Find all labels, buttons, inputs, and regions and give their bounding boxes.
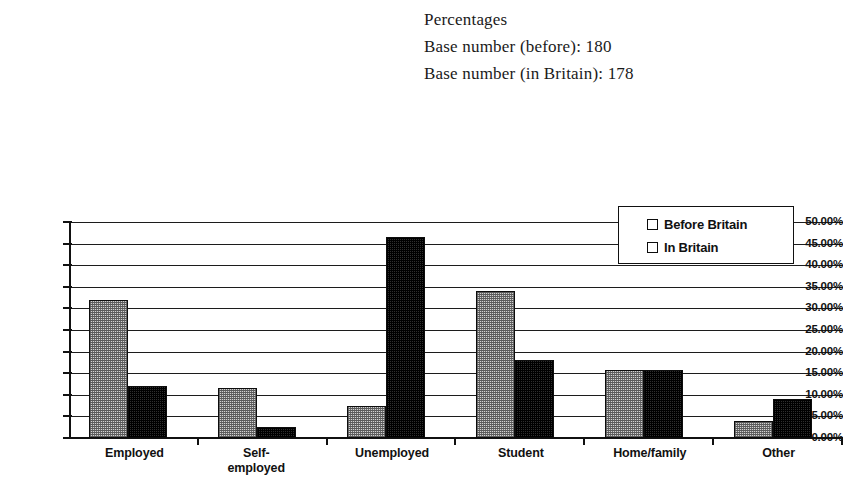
- x-axis-label: Employed: [70, 446, 199, 461]
- bar: [773, 399, 812, 438]
- bar: [257, 427, 296, 438]
- bar: [386, 237, 425, 438]
- bar-group: [70, 196, 199, 438]
- header-line-base-in-britain: Base number (in Britain): 178: [424, 60, 634, 87]
- x-axis-label: Home/family: [585, 446, 714, 461]
- bar: [476, 291, 515, 438]
- x-axis-label: Self-employed: [199, 446, 328, 476]
- x-axis-label: Other: [714, 446, 843, 461]
- bar-group: [199, 196, 328, 438]
- bar-group: [328, 196, 457, 438]
- legend-label: Before Britain: [664, 217, 747, 232]
- legend-item: In Britain: [647, 237, 793, 258]
- header-line-percentages: Percentages: [424, 6, 634, 33]
- bar: [644, 370, 683, 438]
- bar: [89, 300, 128, 438]
- x-axis-label: Student: [457, 446, 586, 461]
- legend-item: Before Britain: [647, 214, 793, 235]
- header-annotations: Percentages Base number (before): 180 Ba…: [424, 6, 634, 87]
- bar: [605, 370, 644, 438]
- x-tick-mark: [583, 438, 585, 445]
- x-tick-mark: [454, 438, 456, 445]
- bar: [515, 360, 554, 438]
- header-line-base-before: Base number (before): 180: [424, 33, 634, 60]
- x-tick-mark: [326, 438, 328, 445]
- bar-group: [457, 196, 586, 438]
- x-tick-mark: [197, 438, 199, 445]
- bar: [734, 421, 773, 438]
- legend-swatch-in-britain-icon: [647, 242, 658, 253]
- x-tick-mark: [712, 438, 714, 445]
- bar: [347, 406, 386, 438]
- legend-label: In Britain: [664, 240, 718, 255]
- bar: [218, 388, 257, 438]
- legend-swatch-before-britain-icon: [647, 219, 658, 230]
- bar-chart: 0.00%5.00%10.00%15.00%20.00%25.00%30.00%…: [0, 196, 843, 492]
- chart-legend: Before Britain In Britain: [618, 206, 794, 264]
- x-axis-label: Unemployed: [328, 446, 457, 461]
- bar: [128, 386, 167, 438]
